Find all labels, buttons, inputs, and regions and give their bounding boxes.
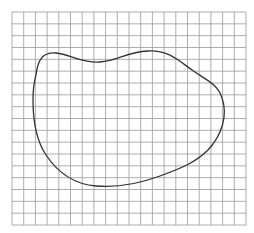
grid-diagram bbox=[0, 0, 254, 233]
grid-lines bbox=[12, 12, 246, 225]
